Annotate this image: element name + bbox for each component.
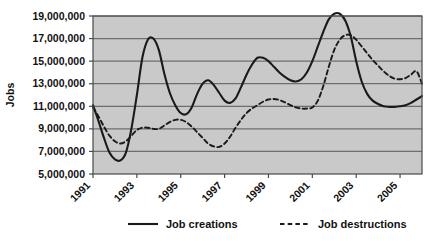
y-axis-tick-label: 9,000,000: [38, 122, 85, 134]
y-axis-tick-label: 19,000,000: [32, 10, 85, 22]
y-axis-tick-label: 17,000,000: [32, 32, 85, 44]
y-axis-tick-label: 13,000,000: [32, 77, 85, 89]
y-axis-title: Jobs: [4, 83, 16, 108]
jobs-line-chart: 19,000,00017,000,00015,000,00013,000,000…: [0, 0, 437, 241]
y-axis-tick-label: 7,000,000: [38, 145, 85, 157]
y-axis-tick-label: 11,000,000: [33, 100, 85, 112]
legend-label-1: Job creations: [166, 218, 238, 230]
legend-label-2: Job destructions: [318, 218, 407, 230]
chart-canvas: 19,000,00017,000,00015,000,00013,000,000…: [0, 0, 437, 241]
y-axis-tick-label: 15,000,000: [32, 55, 85, 67]
y-axis-tick-label: 5,000,000: [38, 168, 85, 180]
plot-area-background: [93, 16, 422, 174]
